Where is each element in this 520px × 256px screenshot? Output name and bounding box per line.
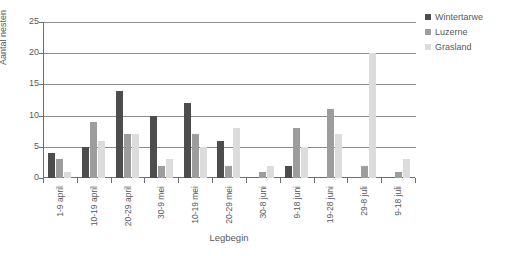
x-tick-label: 30-8 juni (258, 186, 267, 219)
bar (267, 166, 274, 178)
x-tick-label: 20-29 april (123, 186, 132, 226)
x-label-cell: 29-8 juli (347, 184, 381, 234)
legend-item: Grasland (425, 42, 515, 52)
x-tick-label: 10-19 mei (191, 186, 200, 224)
y-tick-label: 15 (9, 79, 39, 88)
bar-group (314, 22, 348, 178)
bar-group (144, 22, 178, 178)
bar (335, 134, 342, 178)
bar (200, 147, 207, 178)
x-label-cell: 19-28 juni (314, 184, 348, 234)
x-label-cell: 20-29 april (111, 184, 145, 234)
bar-group (212, 22, 246, 178)
x-axis-title: Legbegin (43, 232, 415, 243)
x-tick-label: 9-18 juli (394, 186, 403, 216)
legend-label: Luzerne (435, 27, 468, 37)
bar (217, 141, 224, 178)
bar (301, 147, 308, 178)
legend-label: Grasland (435, 42, 472, 52)
x-tick-mark (246, 178, 247, 183)
bar (166, 159, 173, 178)
x-tick-mark (111, 178, 112, 183)
bar (98, 141, 105, 178)
bar-group (77, 22, 111, 178)
y-tick-label: 10 (9, 111, 39, 120)
chart-legend: WintertarweLuzerneGrasland (425, 12, 515, 57)
legend-swatch-icon (425, 14, 431, 20)
y-axis-ticks: 0510152025 (5, 22, 39, 178)
bar (403, 159, 410, 178)
x-tick-label: 9-18 juni (292, 186, 301, 219)
y-tick-label: 25 (9, 17, 39, 26)
x-tick-label: 19-28 juni (326, 186, 335, 223)
bar-groups (43, 22, 415, 178)
bar (192, 134, 199, 178)
bar-group (246, 22, 280, 178)
bar (158, 166, 165, 178)
x-label-cell: 30-9 mei (144, 184, 178, 234)
x-tick-mark (415, 178, 416, 183)
x-tick-mark (43, 178, 44, 183)
bar-group (280, 22, 314, 178)
x-tick-mark (280, 178, 281, 183)
bar (132, 134, 139, 178)
bar-chart: Aantal nesten 0510152025 1-9 april10-19 … (0, 0, 520, 256)
x-tick-label: 29-8 juli (360, 186, 369, 216)
y-tick-label: 0 (9, 173, 39, 182)
x-tick-mark (347, 178, 348, 183)
bar (116, 91, 123, 178)
x-tick-label: 10-19 april (89, 186, 98, 226)
x-tick-label: 1-9 april (55, 186, 64, 217)
x-label-cell: 30-8 juni (246, 184, 280, 234)
bar (293, 128, 300, 178)
bar (184, 103, 191, 178)
x-tick-mark (314, 178, 315, 183)
bar-group (111, 22, 145, 178)
legend-item: Luzerne (425, 27, 515, 37)
bar-group (381, 22, 415, 178)
bar-group (347, 22, 381, 178)
x-tick-mark (178, 178, 179, 183)
bar (48, 153, 55, 178)
bar (369, 53, 376, 178)
bar (124, 134, 131, 178)
x-tick-mark (212, 178, 213, 183)
x-tick-mark (381, 178, 382, 183)
x-tick-mark (144, 178, 145, 183)
x-label-cell: 9-18 juni (280, 184, 314, 234)
bar-group (43, 22, 77, 178)
legend-label: Wintertarwe (435, 12, 483, 22)
bar (90, 122, 97, 178)
bar-group (178, 22, 212, 178)
bar (56, 159, 63, 178)
bar (150, 116, 157, 178)
x-label-cell: 20-29 mei (212, 184, 246, 234)
legend-swatch-icon (425, 29, 431, 35)
x-tick-mark (77, 178, 78, 183)
x-axis-tickmarks (43, 178, 415, 183)
bar (82, 147, 89, 178)
x-label-cell: 9-18 juli (381, 184, 415, 234)
bar (285, 166, 292, 178)
x-label-cell: 1-9 april (43, 184, 77, 234)
x-label-cell: 10-19 mei (178, 184, 212, 234)
x-tick-label: 30-9 mei (157, 186, 166, 219)
bar (233, 128, 240, 178)
bar (327, 109, 334, 178)
legend-item: Wintertarwe (425, 12, 515, 22)
x-axis-labels: 1-9 april10-19 april20-29 april30-9 mei1… (43, 184, 415, 234)
y-tick-label: 5 (9, 142, 39, 151)
y-tick-label: 20 (9, 48, 39, 57)
x-tick-label: 20-29 mei (224, 186, 233, 224)
bar (225, 166, 232, 178)
bar (361, 166, 368, 178)
x-label-cell: 10-19 april (77, 184, 111, 234)
legend-swatch-icon (425, 44, 431, 50)
